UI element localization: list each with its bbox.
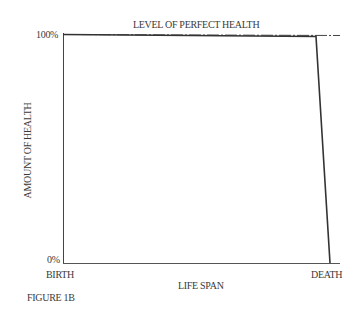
figure-caption: FIGURE 1B <box>27 292 75 303</box>
x-axis-label: LIFE SPAN <box>178 280 224 291</box>
health-curve <box>63 35 330 264</box>
chart-title: LEVEL OF PERFECT HEALTH <box>133 19 259 30</box>
y-axis-label: AMOUNT OF HEALTH <box>22 96 33 206</box>
x-tick-death: DEATH <box>311 269 342 280</box>
y-tick-0: 0% <box>47 254 60 265</box>
x-tick-birth: BIRTH <box>46 269 74 280</box>
y-tick-100: 100% <box>36 29 58 40</box>
